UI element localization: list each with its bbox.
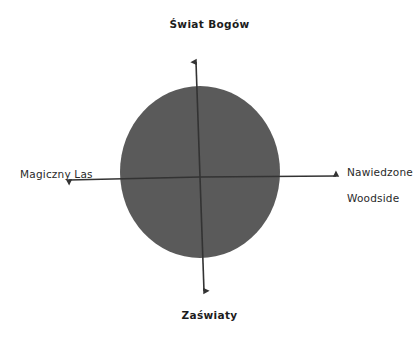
diagram-canvas: Świat Bogów Magiczny Las Nawiedzone Wood… <box>0 0 419 338</box>
axis-label-right: Nawiedzone Woodside <box>347 166 413 205</box>
horizontal-axis-right <box>200 176 336 177</box>
axis-label-right-line1: Nawiedzone <box>347 166 413 178</box>
axis-label-right-line2: Woodside <box>347 192 413 205</box>
axis-label-top: Świat Bogów <box>0 18 419 31</box>
axis-label-left: Magiczny Las <box>20 168 93 181</box>
axis-label-bottom: Zaświaty <box>0 309 419 322</box>
